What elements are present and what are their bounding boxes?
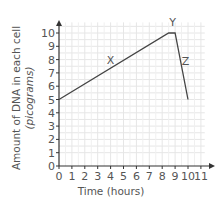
segment-label-z: Z <box>182 55 190 68</box>
y-tick-label: 5 <box>48 94 55 107</box>
y-tick-labels: 012345678910 <box>41 27 59 173</box>
y-tick-label: 8 <box>48 54 55 67</box>
segment-label-y: Y <box>168 16 176 29</box>
x-tick-label: 6 <box>133 170 140 183</box>
x-tick-label: 10 <box>181 170 195 183</box>
y-tick-label: 3 <box>48 120 55 133</box>
y-axis-label-line1: Amount of DNA in each cell <box>10 26 22 170</box>
y-tick-label: 6 <box>48 80 55 93</box>
y-tick-label: 7 <box>48 67 55 80</box>
x-tick-label: 9 <box>172 170 179 183</box>
dna-line-chart: 01234567891011 012345678910 XYZ Time (ho… <box>0 0 223 206</box>
x-tick-label: 1 <box>68 170 75 183</box>
y-tick-label: 1 <box>48 147 55 160</box>
y-axis-label-line2: (picograms) <box>23 66 35 129</box>
x-tick-label: 4 <box>107 170 114 183</box>
x-tick-label: 2 <box>81 170 88 183</box>
x-tick-label: 5 <box>120 170 127 183</box>
x-tick-label: 8 <box>159 170 166 183</box>
y-tick-label: 10 <box>41 27 55 40</box>
grid-lines <box>59 22 205 166</box>
x-axis-arrow-icon <box>209 163 215 169</box>
x-tick-label: 3 <box>94 170 101 183</box>
y-tick-label: 9 <box>48 40 55 53</box>
y-axis-arrow-icon <box>56 20 62 26</box>
x-tick-label: 7 <box>146 170 153 183</box>
x-axis-label: Time (hours) <box>77 185 145 197</box>
y-tick-label: 2 <box>48 133 55 146</box>
axes <box>56 20 215 169</box>
y-tick-label: 4 <box>48 107 55 120</box>
x-tick-label: 0 <box>56 170 63 183</box>
x-tick-labels: 01234567891011 <box>56 166 208 183</box>
segment-label-x: X <box>107 54 115 67</box>
y-tick-label: 0 <box>48 160 55 173</box>
x-tick-label: 11 <box>194 170 208 183</box>
